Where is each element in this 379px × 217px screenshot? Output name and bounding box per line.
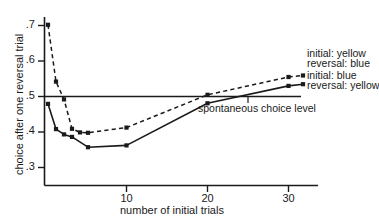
y-tick-label-0.5: .5 bbox=[20, 90, 35, 102]
y-tick-label-0.7: .7 bbox=[20, 19, 35, 31]
spontaneous-choice-level-label: spontaneous choice level bbox=[198, 103, 316, 114]
x-axis-title: number of initial trials bbox=[120, 205, 224, 217]
series-initial-yellow-reversal-blue bbox=[46, 23, 291, 135]
legend-key-dashed-marker bbox=[301, 73, 305, 77]
series-solid-path bbox=[48, 86, 289, 147]
series-dashed-path bbox=[48, 25, 289, 133]
legend-key-dashed bbox=[289, 76, 304, 78]
legend-line-keys bbox=[289, 73, 306, 86]
series-dashed-markers bbox=[46, 23, 291, 135]
x-tick-label-30: 30 bbox=[276, 193, 301, 205]
legend-key-solid-marker bbox=[301, 82, 305, 86]
y-tick-label-0.3: .3 bbox=[20, 161, 35, 173]
series-initial-blue-reversal-yellow bbox=[46, 84, 291, 150]
y-tick-label-0.4: .4 bbox=[20, 125, 35, 137]
legend-key-solid bbox=[289, 84, 304, 86]
y-tick-label-0.6: .6 bbox=[20, 54, 35, 66]
y-axis-ticks bbox=[38, 26, 45, 168]
legend-entry-2-line-2: reversal: yellow bbox=[307, 80, 379, 92]
